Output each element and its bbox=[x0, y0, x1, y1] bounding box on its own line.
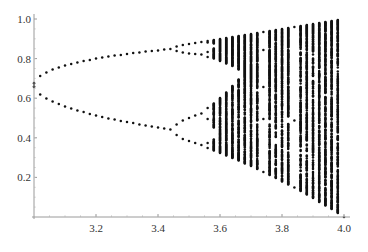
x-tick-label: 3.6 bbox=[213, 222, 227, 234]
y-tick-label: 1.0 bbox=[17, 13, 31, 25]
x-tick-label: 3.8 bbox=[275, 222, 289, 234]
y-tick-label: 0.6 bbox=[17, 92, 31, 104]
x-tick-label: 3.2 bbox=[89, 222, 103, 234]
x-tick-label: 3.4 bbox=[151, 222, 165, 234]
y-tick-label: 0.8 bbox=[17, 53, 31, 65]
x-tick-label: 4.0 bbox=[337, 222, 351, 234]
y-tick-label: 0.2 bbox=[17, 171, 31, 183]
plot-points bbox=[33, 19, 346, 219]
bifurcation-chart: 3.23.43.63.84.0 0.20.40.60.81.0 bbox=[0, 0, 368, 252]
y-tick-label: 0.4 bbox=[17, 132, 31, 144]
